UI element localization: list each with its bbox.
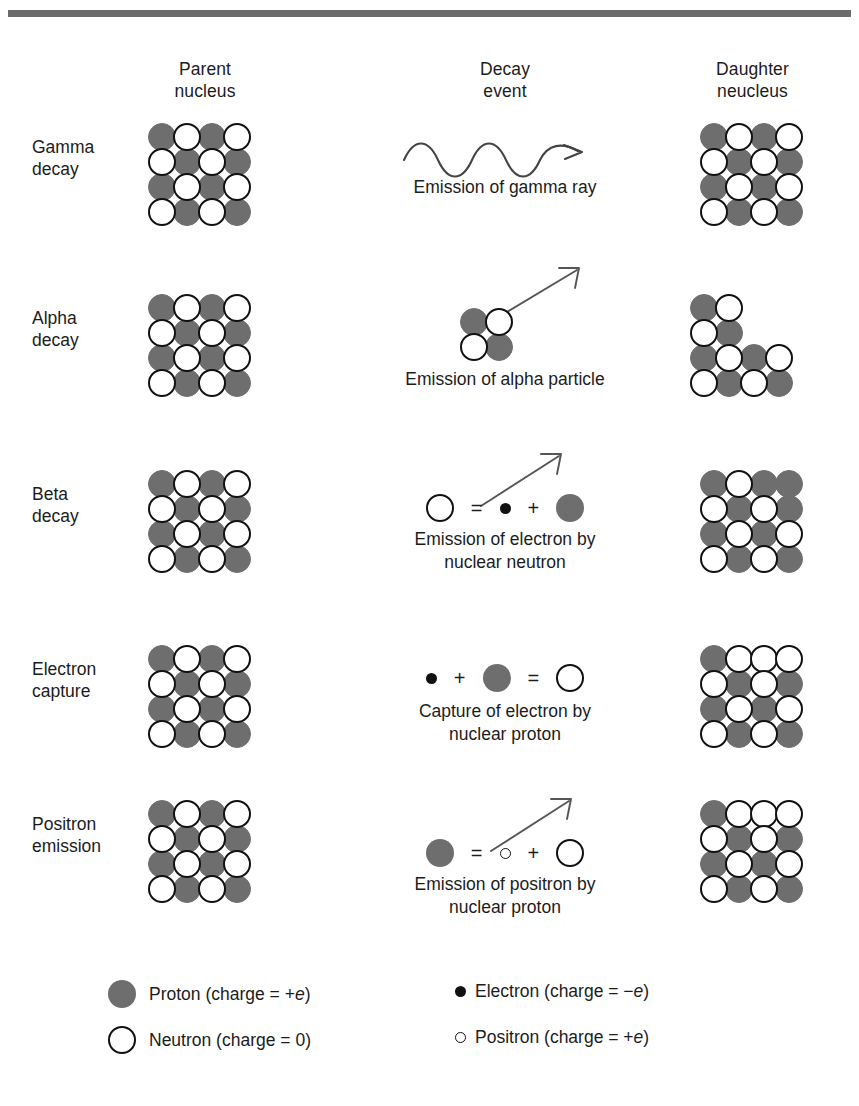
neutron-icon <box>460 333 488 361</box>
neutron-icon <box>725 850 753 878</box>
neutron-icon <box>750 825 778 853</box>
row-label-gamma-decay: Gamma decay <box>32 136 157 180</box>
neutron-icon <box>750 198 778 226</box>
daughter-nucleus-gamma <box>700 123 804 227</box>
electron-capture-equation: + = <box>340 663 670 693</box>
proton-icon <box>223 825 251 853</box>
proton-icon <box>148 850 176 878</box>
event-caption-beta: Emission of electron by nuclear neutron <box>340 528 670 574</box>
neutron-icon <box>148 495 176 523</box>
proton-icon <box>198 173 226 201</box>
daughter-nucleus-alpha <box>690 294 794 398</box>
proton-icon <box>173 720 201 748</box>
neutron-icon <box>750 495 778 523</box>
neutron-icon <box>223 470 251 498</box>
proton-icon <box>223 875 251 903</box>
parent-nucleus-capture <box>148 645 252 749</box>
electron-icon <box>426 673 437 684</box>
positron-icon <box>455 1032 466 1043</box>
neutron-icon <box>148 148 176 176</box>
neutron-icon <box>750 545 778 573</box>
proton-icon <box>173 198 201 226</box>
neutron-icon <box>426 494 454 522</box>
positron-emission-equation: = + <box>340 838 670 868</box>
proton-icon <box>223 319 251 347</box>
neutron-icon <box>750 875 778 903</box>
proton-icon <box>173 670 201 698</box>
proton-icon <box>108 980 136 1008</box>
neutron-icon <box>725 695 753 723</box>
neutron-icon <box>108 1026 136 1054</box>
proton-icon <box>750 123 778 151</box>
proton-icon <box>148 470 176 498</box>
neutron-icon <box>775 695 803 723</box>
neutron-icon <box>148 825 176 853</box>
neutron-icon <box>700 875 728 903</box>
proton-icon <box>750 470 778 498</box>
proton-icon <box>750 850 778 878</box>
proton-icon <box>223 198 251 226</box>
neutron-icon <box>556 664 584 692</box>
neutron-icon <box>725 123 753 151</box>
proton-icon <box>775 470 803 498</box>
neutron-icon <box>173 470 201 498</box>
equals-sign: = <box>471 498 483 518</box>
neutron-icon <box>148 670 176 698</box>
proton-icon <box>148 645 176 673</box>
neutron-icon <box>223 695 251 723</box>
neutron-icon <box>173 344 201 372</box>
proton-icon <box>198 695 226 723</box>
proton-icon <box>173 825 201 853</box>
equals-sign: = <box>528 668 540 688</box>
top-rule <box>8 10 851 17</box>
proton-icon <box>725 495 753 523</box>
proton-icon <box>775 875 803 903</box>
proton-icon <box>223 369 251 397</box>
event-caption-alpha: Emission of alpha particle <box>340 368 670 391</box>
proton-icon <box>775 670 803 698</box>
daughter-nucleus-positron <box>700 800 804 904</box>
proton-icon <box>556 494 584 522</box>
daughter-nucleus-beta <box>700 470 804 574</box>
proton-icon <box>173 369 201 397</box>
proton-icon <box>426 839 454 867</box>
proton-icon <box>198 800 226 828</box>
neutron-icon <box>198 148 226 176</box>
proton-icon <box>148 173 176 201</box>
neutron-icon <box>700 670 728 698</box>
proton-icon <box>700 850 728 878</box>
neutron-icon <box>700 495 728 523</box>
parent-nucleus-beta <box>148 470 252 574</box>
proton-icon <box>765 369 793 397</box>
parent-nucleus-alpha <box>148 294 252 398</box>
neutron-icon <box>775 800 803 828</box>
neutron-icon <box>148 720 176 748</box>
neutron-icon <box>725 800 753 828</box>
neutron-icon <box>223 520 251 548</box>
proton-icon <box>173 495 201 523</box>
row-label-beta-decay: Beta decay <box>32 483 157 527</box>
neutron-icon <box>173 294 201 322</box>
proton-icon <box>715 369 743 397</box>
neutron-icon <box>750 645 778 673</box>
proton-icon <box>725 545 753 573</box>
neutron-icon <box>223 294 251 322</box>
proton-icon <box>750 173 778 201</box>
proton-icon <box>485 333 513 361</box>
proton-icon <box>690 294 718 322</box>
proton-icon <box>148 344 176 372</box>
plus-sign: + <box>528 843 540 863</box>
plus-sign: + <box>454 668 466 688</box>
parent-nucleus-positron <box>148 800 252 904</box>
proton-icon <box>750 520 778 548</box>
neutron-icon <box>198 825 226 853</box>
proton-icon <box>148 294 176 322</box>
neutron-icon <box>775 173 803 201</box>
neutron-icon <box>173 645 201 673</box>
proton-icon <box>775 545 803 573</box>
event-caption-positron: Emission of positron by nuclear proton <box>340 873 670 919</box>
proton-icon <box>223 720 251 748</box>
neutron-icon <box>223 344 251 372</box>
electron-icon <box>500 503 511 514</box>
neutron-icon <box>740 369 768 397</box>
